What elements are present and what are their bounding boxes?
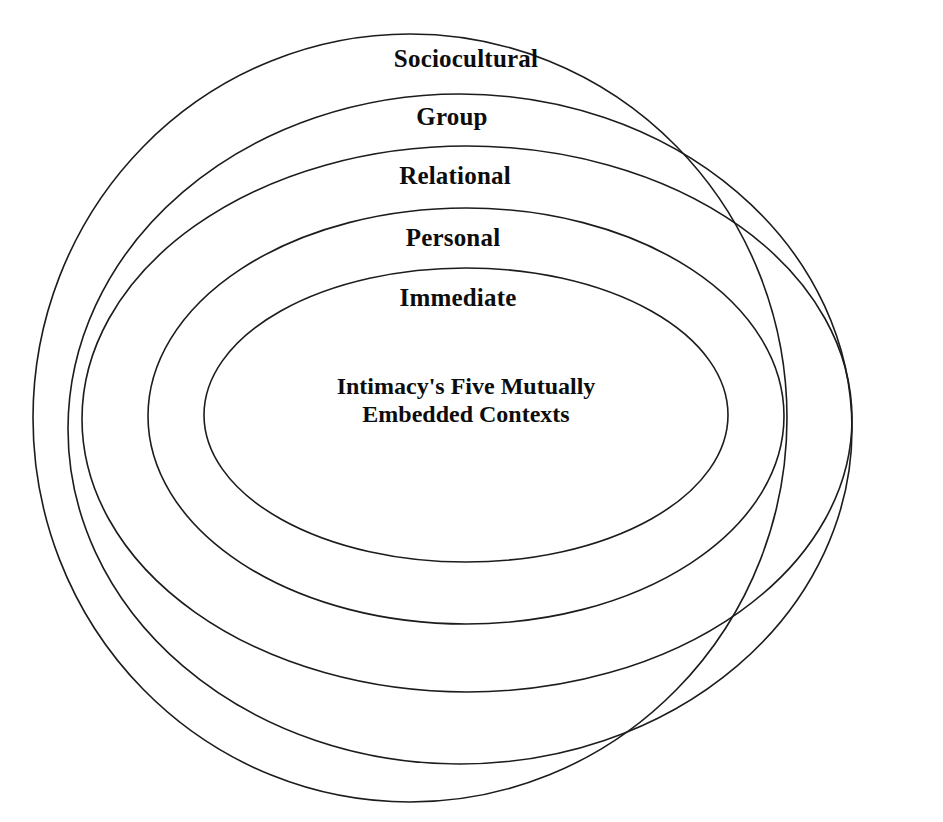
ring-label-relational: Relational [399, 163, 511, 189]
ring-label-immediate: Immediate [399, 285, 516, 311]
diagram-canvas: Sociocultural Group Relational Personal … [0, 0, 943, 822]
ring-label-sociocultural: Sociocultural [394, 46, 538, 72]
ring-label-personal: Personal [406, 225, 501, 251]
ring-label-group: Group [416, 104, 487, 130]
ellipse-group [68, 94, 852, 764]
center-title-line-2: Embedded Contexts [337, 400, 596, 428]
center-title-line-1: Intimacy's Five Mutually [337, 372, 596, 400]
center-title: Intimacy's Five Mutually Embedded Contex… [337, 372, 596, 429]
